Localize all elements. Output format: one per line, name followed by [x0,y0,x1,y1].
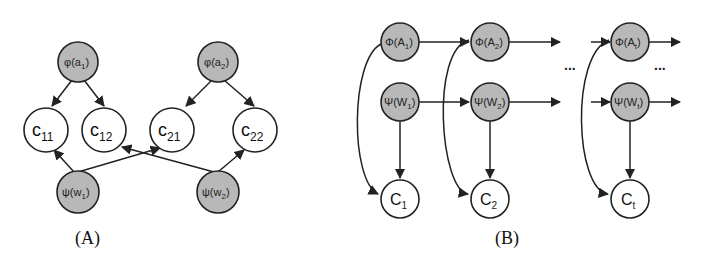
node-c11: c11 [24,108,68,152]
edge-phi-a1-c1 [357,44,381,194]
node-phi-a2: φ(a2) [198,42,238,82]
node-psi-wt-big: Ψ(Wt) [611,83,649,121]
edge-phi-a1-c12 [84,80,104,106]
node-ct: Ct [611,180,649,218]
edge-phi-a1-c11 [52,80,72,106]
ellipsis-middle: ... [564,57,576,73]
node-psi-w2-big: Ψ(W2) [471,83,509,121]
node-phi-a1: φ(a1) [58,42,98,82]
node-phi-at-big: Φ(At) [611,23,649,61]
edge-phi-at-ct [581,40,609,194]
caption-a: (A) [75,228,100,249]
edge-psi-w1-c11 [54,150,74,172]
edge-phi-a2-c21 [186,80,212,106]
node-phi-a2-big: Φ(A2) [471,23,509,61]
node-psi-w1: ψ(w1) [57,171,99,213]
node-c21: c21 [150,108,194,152]
node-psi-w2: ψ(w2) [197,171,239,213]
ellipsis-right: ... [654,57,666,73]
edge-phi-a2-c2 [443,40,469,194]
panel-a: φ(a1) φ(a2) c11 c12 c21 c22 ψ(w1) [24,42,277,249]
node-c12: c12 [82,108,126,152]
panel-b: ... ... Φ(A1) Φ(A2) Φ(At) Ψ(W1) Ψ(W2) Ψ(… [357,23,680,249]
edge-phi-a2-c22 [224,80,254,106]
node-c22: c22 [233,108,277,152]
caption-b: (B) [495,228,519,249]
node-phi-a1-big: Φ(A1) [381,23,419,61]
edge-psi-w1-c21 [78,148,160,172]
diagram-canvas: φ(a1) φ(a2) c11 c12 c21 c22 ψ(w1) [0,0,702,269]
node-c2: C2 [471,180,509,218]
node-psi-w1-big: Ψ(W1) [381,83,419,121]
node-c1: C1 [381,180,419,218]
edge-psi-w2-c22 [218,150,244,172]
